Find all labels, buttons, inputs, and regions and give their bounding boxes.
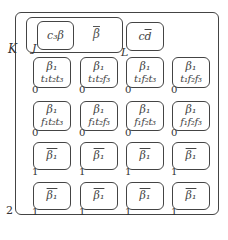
cell-line1: β₁ <box>47 190 58 202</box>
cell-line2: f₁t₂f₃ <box>88 116 110 128</box>
cell-line1: β₁ <box>47 150 58 162</box>
label-l: L <box>121 47 128 59</box>
cell-line1: β₁ <box>140 104 151 116</box>
inner-box-c3beta: c₃β <box>37 21 74 50</box>
grid-cell: β₁f₁f₂f₃ <box>172 101 210 131</box>
grid-cell: β₁ <box>126 182 164 210</box>
group-box-l: cd <box>126 22 164 51</box>
cell-line2: f₁f₂t₃ <box>134 116 156 128</box>
cell-index-label: 1 <box>125 167 131 177</box>
label-2: 2 <box>6 206 13 216</box>
cell-index-label: 1 <box>32 167 38 177</box>
grid-cell: β₁ <box>33 182 71 210</box>
grid-cell: β₁ <box>126 142 164 170</box>
grid-cell: β₁ <box>172 142 210 170</box>
cell-line1: β₁ <box>186 190 197 202</box>
cell-line1: β₁ <box>186 150 197 162</box>
cell-index-label: 0 <box>171 85 177 95</box>
cell-line1: β₁ <box>186 61 197 73</box>
grid-cell: β₁t₁t₂t₃ <box>33 57 71 88</box>
cell-line1: β₁ <box>140 150 151 162</box>
cd-bar-text: cd <box>138 31 151 43</box>
grid-cell: β₁f₁t₂f₃ <box>80 101 118 131</box>
cell-line1: β₁ <box>94 190 105 202</box>
cell-index-label: 1 <box>125 207 131 217</box>
label-k: K <box>8 43 17 55</box>
cell-index-label: 1 <box>79 207 85 217</box>
label-j: J <box>32 43 36 55</box>
cell-line2: t₁f₂f₃ <box>180 73 202 85</box>
grid-cell: β₁f₁f₂t₃ <box>126 101 164 131</box>
grid-cell: β₁ <box>80 182 118 210</box>
cell-index-label: 0 <box>32 85 38 95</box>
inner-label: c₃β <box>47 30 64 42</box>
grid-cell: β₁t₁t₂f₃ <box>80 57 118 88</box>
cell-line2: f₁t₂t₃ <box>41 116 63 128</box>
cell-line1: β₁ <box>47 61 58 73</box>
cell-index-label: 0 <box>79 85 85 95</box>
cell-line2: f₁f₂f₃ <box>180 116 201 128</box>
grid-cell: β₁t₁f₂f₃ <box>172 57 210 88</box>
cell-index-label: 1 <box>79 167 85 177</box>
grid-cell: β₁ <box>80 142 118 170</box>
cell-index-label: 0 <box>171 128 177 138</box>
cell-line2: t₁t₂f₃ <box>88 73 110 85</box>
cell-index-label: 0 <box>79 128 85 138</box>
cell-line1: β₁ <box>47 104 58 116</box>
grid-cell: β₁ <box>33 142 71 170</box>
cell-index-label: 1 <box>171 167 177 177</box>
cell-line2: t₁f₂t₃ <box>134 73 156 85</box>
cell-index-label: 0 <box>125 85 131 95</box>
cell-line1: β₁ <box>186 104 197 116</box>
cell-line2: t₁t₂t₃ <box>41 73 63 85</box>
cell-line1: β₁ <box>94 150 105 162</box>
grid-cell: β₁f₁t₂t₃ <box>33 101 71 131</box>
cell-line1: β₁ <box>140 190 151 202</box>
cell-index-label: 1 <box>32 207 38 217</box>
grid-cell: β₁t₁f₂t₃ <box>126 57 164 88</box>
beta-bar-text: β <box>93 27 100 41</box>
cell-index-label: 1 <box>171 207 177 217</box>
cell-line1: β₁ <box>94 104 105 116</box>
cell-index-label: 0 <box>32 128 38 138</box>
grid-cell: β₁ <box>172 182 210 210</box>
cell-line1: β₁ <box>140 61 151 73</box>
cell-line1: β₁ <box>94 61 105 73</box>
cell-index-label: 0 <box>125 128 131 138</box>
